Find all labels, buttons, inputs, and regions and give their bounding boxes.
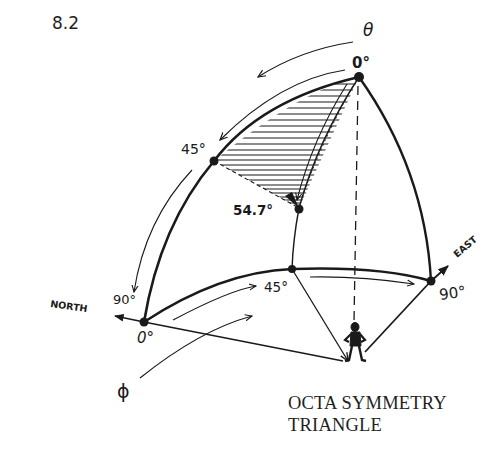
north-horizon-point xyxy=(140,318,149,327)
east-ground-line xyxy=(365,281,431,352)
theta-45-label: 45° xyxy=(181,141,206,157)
theta-symbol: θ xyxy=(363,20,374,40)
north-label: NORTH xyxy=(50,298,89,314)
east-horizon-point xyxy=(427,277,436,286)
east-label: EAST xyxy=(451,233,479,259)
zenith-0-label: 0° xyxy=(352,54,370,72)
theta-to-54-7-dotted xyxy=(302,86,353,198)
zenith-plumb-line xyxy=(354,86,358,322)
magic-angle-point xyxy=(295,205,304,214)
phi-90-label: 90° xyxy=(438,282,467,304)
theta-to-90-arrow xyxy=(134,170,192,292)
caption-line-2: TRIANGLE xyxy=(288,414,447,436)
zenith-point xyxy=(354,72,364,82)
theta-90-label: 90° xyxy=(113,292,136,307)
magic-angle-label: 54.7° xyxy=(233,202,273,218)
caption-line-1: OCTA SYMMETRY xyxy=(288,392,447,414)
phi-to-45-arrow xyxy=(173,286,256,320)
theta-45-point xyxy=(210,157,219,166)
theta-direction-arrow xyxy=(258,42,353,77)
theta-to-54-7-arrow xyxy=(297,84,347,200)
ground-line-45 xyxy=(292,269,348,361)
north-ground-line xyxy=(144,322,343,361)
horizon-45-point xyxy=(288,265,296,273)
phi-to-90-arrow xyxy=(310,277,414,284)
phi-0-label: 0° xyxy=(137,329,154,347)
horizon-arc xyxy=(144,269,431,323)
observer-figure-icon xyxy=(345,323,366,362)
phi-symbol: ϕ xyxy=(117,380,130,402)
meridian-45-arc xyxy=(292,77,359,269)
phi-45-label: 45° xyxy=(264,279,288,295)
meridian-east-arc xyxy=(359,77,431,281)
figure-caption: OCTA SYMMETRY TRIANGLE xyxy=(288,392,447,436)
